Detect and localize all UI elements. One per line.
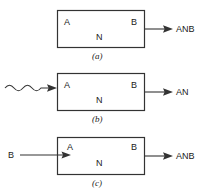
- panel-b: A B N AN (b): [5, 74, 189, 125]
- panel-b-input-wavy-line: [5, 85, 52, 91]
- panel-a-output-port-label: B: [131, 17, 137, 27]
- panel-c-output-port-label: B: [131, 142, 137, 152]
- panel-c-input-port-label: A: [67, 142, 73, 152]
- panel-c-output-label: ANB: [176, 151, 195, 161]
- panel-b-output-port-label: B: [131, 80, 137, 90]
- panel-c-caption: (c): [92, 178, 102, 188]
- figure-svg: A B N ANB (a) A B N AN (b): [0, 0, 201, 192]
- panel-c: A B N B ANB (c): [8, 138, 195, 189]
- panel-c-body-label: N: [96, 158, 103, 168]
- panel-b-body-label: N: [96, 95, 103, 105]
- panel-b-output-label: AN: [176, 87, 189, 97]
- panel-a-output-label: ANB: [176, 24, 195, 34]
- panel-c-input-label: B: [8, 150, 14, 160]
- panel-b-caption: (b): [92, 114, 103, 124]
- panel-a: A B N ANB (a): [58, 11, 195, 62]
- panel-b-input-port-label: A: [64, 80, 70, 90]
- figure-container: A B N ANB (a) A B N AN (b): [0, 0, 201, 192]
- panel-a-body-label: N: [96, 32, 103, 42]
- panel-a-caption: (a): [92, 51, 103, 61]
- panel-a-input-port-label: A: [64, 17, 70, 27]
